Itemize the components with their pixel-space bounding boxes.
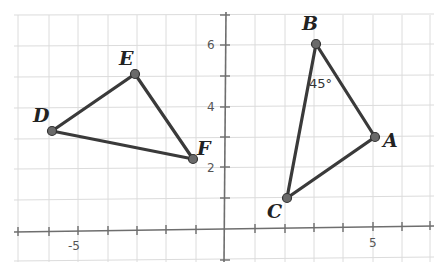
y-tick-label-6: 6 [207, 38, 215, 52]
label-e: E [118, 47, 134, 69]
point-a [371, 133, 380, 142]
x-tick-label-neg5: -5 [68, 239, 80, 253]
point-c [283, 194, 292, 203]
triangle-def: D E F [32, 47, 212, 164]
angle-b-label: 45° [309, 76, 332, 91]
y-tick-label-2: 2 [207, 161, 215, 175]
label-f: F [196, 137, 212, 159]
label-b: B [301, 12, 318, 34]
y-tick-label-4: 4 [207, 100, 215, 114]
x-tick-label-5: 5 [369, 236, 377, 250]
coordinate-plane: -5 5 2 4 6 D E F A B C 45° [0, 0, 442, 269]
label-a: A [381, 129, 398, 151]
point-b [312, 40, 321, 49]
point-d [48, 127, 57, 136]
label-c: C [267, 200, 282, 222]
label-d: D [32, 104, 50, 126]
point-e [131, 70, 140, 79]
triangle-abc: A B C 45° [267, 12, 398, 222]
